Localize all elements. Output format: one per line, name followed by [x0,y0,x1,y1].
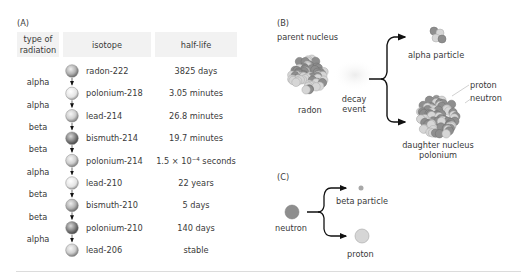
beta-particle [359,186,364,191]
proton-c-label: proton [347,250,374,258]
decay-event-line2: event [338,105,370,113]
decay-event-line1: decay [338,95,370,103]
isotope-ball [66,110,79,123]
arrow-to-daughter [381,79,405,122]
isotope-ball [66,222,79,235]
arrow-to-proton [318,212,346,236]
proton-leader-line [452,85,469,96]
alpha-particle-cluster [430,27,446,43]
isotope-ball [66,244,79,257]
daughter-nucleus-line1: daughter nucleus [398,141,478,149]
proton-label: proton [470,81,497,89]
daughter-nucleus-polonium [416,95,460,138]
parent-name-label: radon [298,106,322,114]
isotope-ball [66,154,79,167]
isotope-ball [66,177,79,190]
proton-ball [302,86,310,94]
isotope-ball [66,65,79,78]
parent-nucleus-label: parent nucleus [277,33,338,41]
alpha-particle-label: alpha particle [408,51,464,59]
isotope-chain [66,65,79,257]
neutron-c-label: neutron [275,224,307,232]
isotope-ball [66,199,79,212]
panel-c-label: (C) [277,173,289,181]
decay-glow [333,59,377,91]
proton-ball [292,78,300,86]
neutron-label: neutron [470,94,502,102]
diagram-graphics [0,0,521,275]
isotope-ball [66,132,79,145]
isotope-ball [66,87,79,100]
neutron-particle [285,205,299,219]
parent-nucleus-radon [288,55,329,94]
beta-particle-label: beta particle [336,197,388,205]
panel-b-label: (B) [277,19,289,27]
daughter-nucleus-line2: polonium [398,151,478,159]
proton-particle [355,229,369,243]
bottom-divider [16,271,521,272]
proton-ball [442,130,450,138]
neutron-ball [438,35,446,43]
